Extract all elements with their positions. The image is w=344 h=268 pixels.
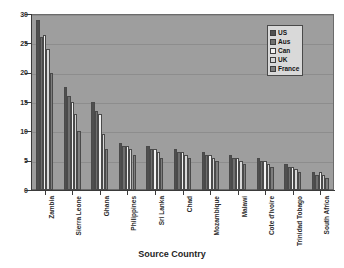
- legend-item-label: France: [278, 65, 299, 72]
- legend-item: Aus: [270, 37, 299, 46]
- bar: [77, 131, 80, 190]
- bar: [133, 155, 136, 190]
- bar: [325, 178, 328, 190]
- bar: [215, 161, 218, 190]
- legend-item: US: [270, 28, 299, 37]
- x-axis-title: Source Country: [0, 249, 344, 259]
- legend-swatch-icon: [270, 66, 276, 72]
- chart-page: 051015202530 ZambiaSierra LeoneGhanaPhil…: [0, 0, 344, 268]
- bar: [160, 158, 163, 190]
- bar: [243, 164, 246, 190]
- bar: [50, 73, 53, 190]
- legend-item-label: Can: [278, 47, 290, 54]
- legend-item: France: [270, 64, 299, 73]
- legend-item-label: UK: [278, 56, 287, 63]
- legend-swatch-icon: [270, 39, 276, 45]
- bar: [105, 149, 108, 190]
- legend-swatch-icon: [270, 57, 276, 63]
- bar: [270, 167, 273, 190]
- bar: [188, 158, 191, 190]
- legend-item: Can: [270, 46, 299, 55]
- legend-item: UK: [270, 55, 299, 64]
- legend-item-label: Aus: [278, 38, 290, 45]
- bar: [298, 172, 301, 190]
- legend-swatch-icon: [270, 30, 276, 36]
- legend-item-label: US: [278, 29, 287, 36]
- chart-legend: USAusCanUKFrance: [267, 25, 303, 76]
- legend-swatch-icon: [270, 48, 276, 54]
